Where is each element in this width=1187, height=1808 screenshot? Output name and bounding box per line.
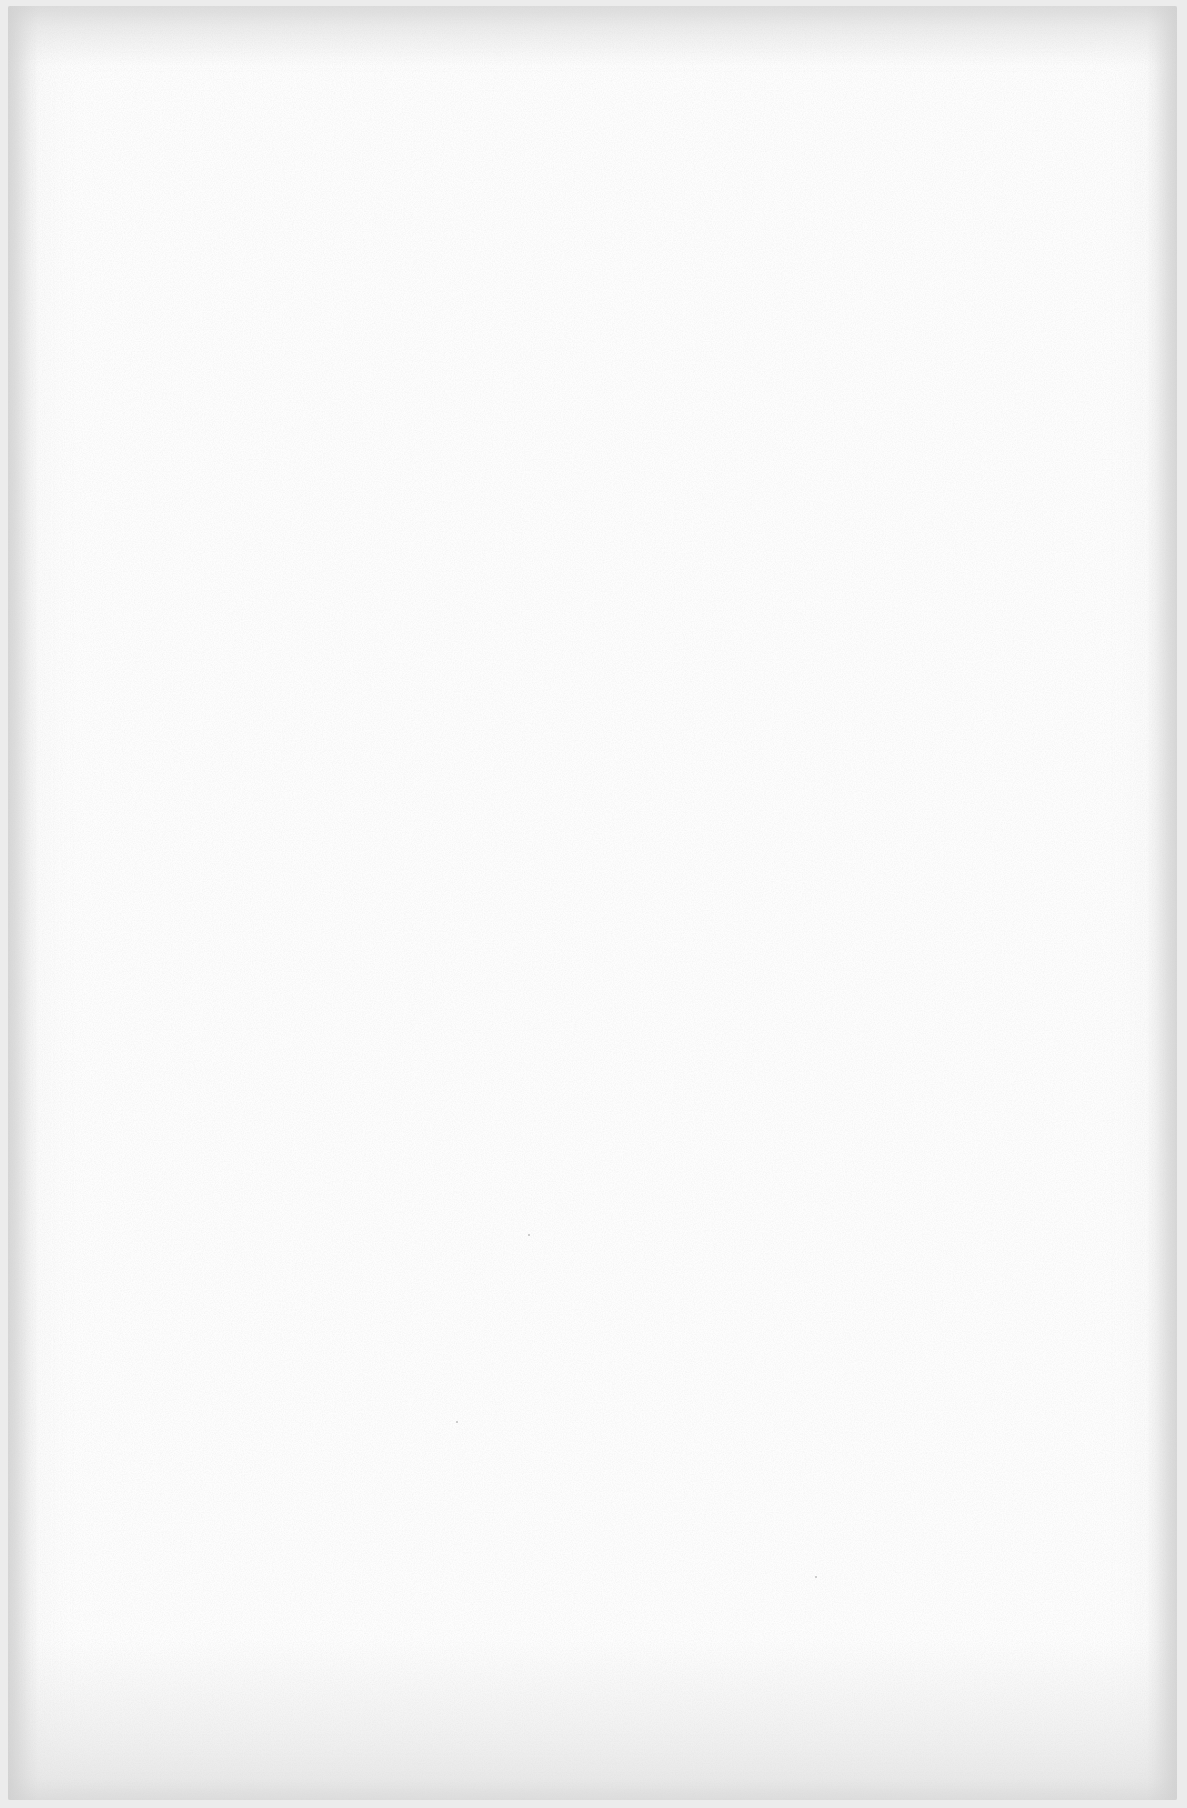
scanned-page-background: [0, 0, 1187, 1808]
page-content: [8, 6, 1177, 1800]
blank-paper-sheet: [8, 6, 1177, 1800]
